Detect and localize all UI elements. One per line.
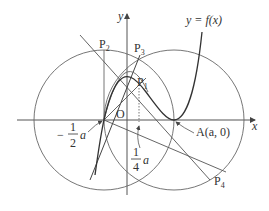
neg-half-a-var: a — [80, 128, 86, 142]
neg-half-a-sign: − — [57, 128, 64, 142]
point-a-label: A(a, 0) — [196, 125, 230, 139]
quarter-a-var: a — [143, 153, 149, 167]
pointer-neg-half-a — [88, 121, 102, 132]
curve-label: y = f(x) — [185, 13, 222, 27]
origin-label: O — [116, 107, 125, 121]
math-diagram: y x O y = f(x) P2 P3 P1 P4 A(a, 0) − 1 2… — [0, 0, 269, 211]
quarter-a-denominator: 4 — [133, 160, 139, 174]
p2-label: P2 — [99, 37, 110, 53]
p4-label: P4 — [214, 174, 225, 190]
y-axis-label: y — [117, 9, 124, 23]
neg-half-a-numerator: 1 — [70, 120, 76, 134]
p3-label: P3 — [134, 41, 145, 57]
x-axis-label: x — [251, 119, 258, 133]
p1-label: P1 — [137, 75, 148, 91]
pointer-a — [176, 122, 194, 133]
neg-half-a-denominator: 2 — [70, 136, 76, 150]
quarter-a-numerator: 1 — [133, 145, 139, 159]
